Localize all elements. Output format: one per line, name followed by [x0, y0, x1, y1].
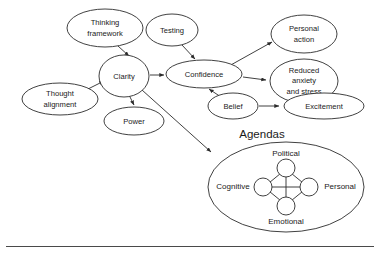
node-thought-alignment-line-1: Thought	[46, 89, 75, 98]
footer-divider	[6, 246, 374, 247]
node-reduced-anxiety-line-2: anxiety	[292, 76, 316, 85]
node-thinking-framework[interactable]: Thinking framework	[67, 9, 143, 47]
nodes-layer: Thinking framework Thought alignment Cla…	[22, 9, 364, 135]
agenda-label-cognitive: Cognitive	[216, 182, 250, 191]
node-confidence[interactable]: Confidence	[166, 60, 242, 88]
node-power[interactable]: Power	[104, 107, 164, 135]
node-personal-action[interactable]: Personal action	[271, 15, 337, 53]
agenda-dot-political[interactable]	[277, 159, 295, 177]
agenda-dot-cognitive[interactable]	[254, 178, 272, 196]
agenda-label-personal: Personal	[324, 182, 356, 191]
node-personal-action-line-2: action	[294, 35, 314, 44]
agendas-title: Agendas	[239, 128, 285, 140]
node-reduced-anxiety-line-1: Reduced	[289, 66, 319, 75]
agendas-cluster[interactable]: Agendas Political Cognitive Personal Emo…	[208, 128, 364, 232]
agenda-dot-emotional[interactable]	[277, 197, 295, 215]
node-excitement[interactable]: Excitement	[284, 93, 364, 119]
node-confidence-label: Confidence	[185, 70, 223, 79]
agenda-dot-personal[interactable]	[300, 178, 318, 196]
agenda-label-political: Political	[272, 149, 300, 158]
agenda-label-emotional: Emotional	[268, 217, 304, 226]
node-power-label: Power	[123, 117, 145, 126]
edge-thinking-framework-to-clarity	[118, 46, 129, 56]
edge-confidence-to-personal-action	[229, 42, 272, 66]
node-thinking-framework-line-1: Thinking	[91, 18, 120, 27]
concept-map-svg: Thinking framework Thought alignment Cla…	[0, 0, 380, 258]
diagram-canvas: Thinking framework Thought alignment Cla…	[0, 0, 380, 258]
edge-testing-to-confidence	[182, 45, 195, 59]
node-belief[interactable]: Belief	[208, 93, 258, 119]
node-thought-alignment-line-2: alignment	[44, 100, 78, 109]
node-belief-label: Belief	[224, 102, 244, 111]
node-personal-action-line-1: Personal	[289, 24, 319, 33]
node-excitement-label: Excitement	[305, 102, 343, 111]
edge-confidence-to-reduced-anxiety	[243, 77, 266, 80]
node-thought-alignment[interactable]: Thought alignment	[22, 83, 98, 115]
node-thinking-framework-line-2: framework	[87, 29, 123, 38]
node-clarity[interactable]: Clarity	[99, 55, 149, 97]
node-testing-label: Testing	[160, 26, 184, 35]
node-clarity-label: Clarity	[113, 72, 135, 81]
node-testing[interactable]: Testing	[146, 14, 198, 46]
